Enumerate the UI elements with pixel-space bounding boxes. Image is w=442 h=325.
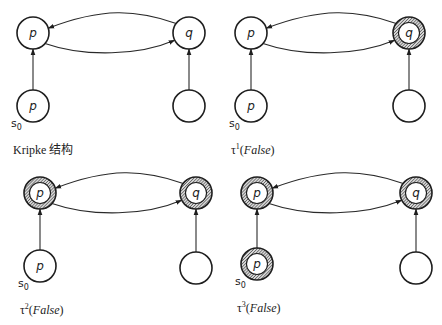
state-node-s2-marked: q [180,177,212,209]
initial-state-label: s0 [11,117,22,132]
state-node-s2: q [173,17,205,49]
caption-tau3: τ3(False) [237,300,281,315]
state-label: q [412,186,420,200]
state-label: q [185,26,193,40]
edge-s1-to-s2 [52,200,182,213]
initial-state-label: s0 [235,275,246,290]
panel-tau1: ps0pqτ1(False) [229,13,425,157]
caption-tau2: τ2(False) [20,302,64,317]
state-node-s2-marked: q [393,17,425,49]
state-label: q [192,186,200,200]
state-node-s0-marked: p [241,248,273,280]
state-label: p [246,26,255,40]
state-label: p [246,99,255,113]
state-node-s3 [180,252,212,284]
edge-s1-to-s2 [269,200,402,213]
state-label: p [28,26,37,40]
state-label: p [252,257,261,271]
caption-tau1: τ1(False) [231,142,275,157]
state-node-s1: p [235,17,267,49]
state-label: q [405,26,413,40]
edge-s2-to-s1 [272,173,403,188]
initial-state-label: s0 [229,117,240,132]
state-node-s2-marked: q [400,177,432,209]
state-label: p [35,186,44,200]
state-node-s0: p [17,90,49,122]
state-label: p [252,186,261,200]
initial-state-label: s0 [18,277,29,292]
state-label: p [28,99,37,113]
state-node-s1-marked: p [24,177,56,209]
edge-s2-to-s1 [266,13,396,28]
panel-tau3: ps0pqτ3(False) [235,173,432,315]
caption-kripke: Kripke 结构 [13,142,73,157]
edge-s1-to-s2 [45,40,175,53]
edge-s2-to-s1 [48,13,176,28]
state-node-s3 [393,90,425,122]
kripke-fixpoint-figure: ps0pqKripke 结构ps0pqτ1(False)ps0pqτ2(Fals… [0,0,442,325]
state-node-s3 [173,90,205,122]
state-node-s1: p [17,17,49,49]
panel-kripke: ps0pqKripke 结构 [11,13,205,157]
panel-tau2: ps0pqτ2(False) [18,173,212,317]
state-node-s1-marked: p [241,177,273,209]
edge-s1-to-s2 [263,40,395,53]
state-node-s3 [400,252,432,284]
state-node-s0: p [235,90,267,122]
state-node-s0: p [24,250,56,282]
state-label: p [35,259,44,273]
edge-s2-to-s1 [55,173,183,188]
